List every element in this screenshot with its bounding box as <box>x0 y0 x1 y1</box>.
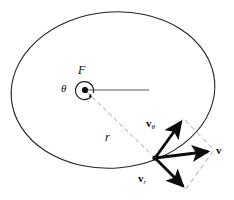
v-r-vector <box>155 158 183 186</box>
v-total-label: v <box>216 145 222 156</box>
radius-dashed-line <box>87 92 155 158</box>
diagram-canvas <box>0 0 234 200</box>
v-r-label: vr <box>138 173 146 185</box>
focus-label: F <box>78 64 85 76</box>
focus-point-dot <box>82 87 88 93</box>
v-r-label-sub: r <box>144 178 147 185</box>
theta-label: θ <box>61 83 66 94</box>
v-total-vector <box>155 152 208 159</box>
v-theta-vector <box>155 122 181 158</box>
radius-label: r <box>105 131 110 143</box>
orbital-velocity-diagram: F θ r vθ vr v <box>0 0 234 200</box>
v-theta-label-sub: θ <box>152 123 155 130</box>
v-theta-label: vθ <box>146 118 155 130</box>
